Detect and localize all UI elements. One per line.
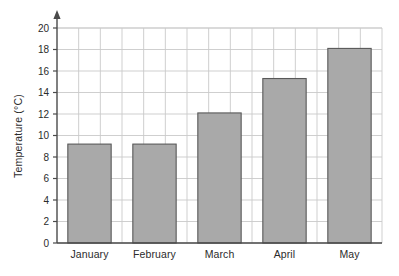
y-tick-label: 2 bbox=[43, 216, 49, 227]
y-tick-label: 12 bbox=[38, 109, 50, 120]
bar-chart-figure: 02468101214161820 JanuaryFebruaryMarchAp… bbox=[0, 0, 399, 276]
bar-march bbox=[198, 113, 241, 243]
y-tick-label: 10 bbox=[38, 130, 50, 141]
y-tick-label: 20 bbox=[38, 23, 50, 34]
y-tick-label: 8 bbox=[43, 152, 49, 163]
x-label-march: March bbox=[205, 248, 235, 260]
y-axis-title: Temperature (°C) bbox=[12, 94, 24, 178]
x-label-january: January bbox=[70, 248, 109, 260]
bar-january bbox=[68, 144, 111, 243]
x-label-may: May bbox=[339, 248, 360, 260]
y-axis-arrowhead bbox=[53, 10, 60, 19]
y-axis-tick-labels: 02468101214161820 bbox=[38, 23, 50, 249]
bar-may bbox=[328, 48, 371, 243]
bar-february bbox=[133, 144, 176, 243]
y-tick-label: 16 bbox=[38, 66, 50, 77]
y-tick-label: 14 bbox=[38, 87, 50, 98]
y-tick-label: 4 bbox=[43, 195, 49, 206]
y-tick-label: 18 bbox=[38, 44, 50, 55]
x-axis-category-labels: JanuaryFebruaryMarchAprilMay bbox=[70, 248, 360, 260]
chart-canvas: 02468101214161820 JanuaryFebruaryMarchAp… bbox=[0, 0, 399, 276]
y-tick-label: 0 bbox=[43, 238, 49, 249]
x-label-april: April bbox=[274, 248, 296, 260]
x-label-february: February bbox=[133, 248, 176, 260]
y-tick-label: 6 bbox=[43, 173, 49, 184]
bar-april bbox=[263, 79, 306, 243]
